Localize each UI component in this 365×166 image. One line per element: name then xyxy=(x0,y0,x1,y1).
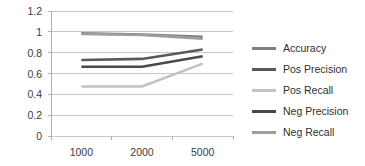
x-tick-marks xyxy=(51,136,233,140)
series-line-neg-recall xyxy=(81,34,202,39)
legend-swatch-icon xyxy=(252,89,276,92)
gridlines xyxy=(51,11,233,136)
legend-label: Pos Precision xyxy=(283,64,347,75)
y-tick-label: 0.8 xyxy=(6,48,42,58)
y-tick-label: 1 xyxy=(6,27,42,37)
legend-item-pos-recall[interactable]: Pos Recall xyxy=(252,80,365,101)
y-tick-label: 0 xyxy=(6,131,42,141)
legend-item-neg-precision[interactable]: Neg Precision xyxy=(252,101,365,122)
legend-item-pos-precision[interactable]: Pos Precision xyxy=(252,59,365,80)
y-tick-label: 0.2 xyxy=(6,110,42,120)
legend-label: Accuracy xyxy=(283,43,326,54)
legend-swatch-icon xyxy=(252,110,276,113)
y-tick-label: 0.6 xyxy=(6,69,42,79)
line-chart: 00.20.40.60.811.2 100020005000 AccuracyP… xyxy=(0,0,365,166)
legend: AccuracyPos PrecisionPos RecallNeg Preci… xyxy=(252,38,365,143)
x-tick-label: 5000 xyxy=(178,147,228,157)
y-tick-label: 1.2 xyxy=(6,6,42,16)
legend-swatch-icon xyxy=(252,68,276,71)
y-tick-label: 0.4 xyxy=(6,89,42,99)
legend-swatch-icon xyxy=(252,47,276,50)
legend-label: Neg Recall xyxy=(283,127,334,138)
legend-label: Neg Precision xyxy=(283,106,348,117)
legend-swatch-icon xyxy=(252,131,276,134)
legend-label: Pos Recall xyxy=(283,85,333,96)
legend-item-neg-recall[interactable]: Neg Recall xyxy=(252,122,365,143)
series-lines xyxy=(81,33,202,86)
x-tick-label: 1000 xyxy=(56,147,106,157)
x-tick-label: 2000 xyxy=(117,147,167,157)
legend-item-accuracy[interactable]: Accuracy xyxy=(252,38,365,59)
axis-lines xyxy=(48,11,51,136)
